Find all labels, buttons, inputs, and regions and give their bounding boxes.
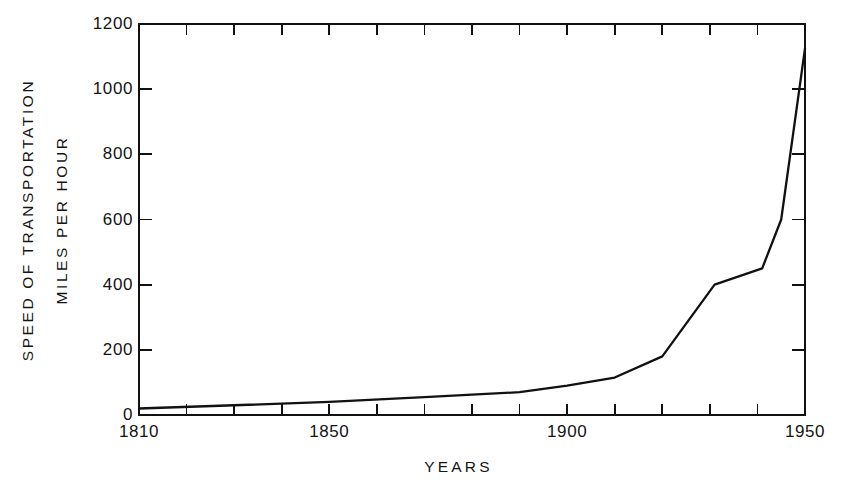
y-tick-label-400: 400 xyxy=(77,275,133,295)
x-tick-label-1850: 1850 xyxy=(309,422,349,442)
data-series-layer xyxy=(139,48,805,408)
axes-box xyxy=(139,24,805,415)
x-axis-label-text: YEARS xyxy=(354,458,493,475)
x-axis-ticks-bottom xyxy=(187,404,758,415)
x-tick-label-1950: 1950 xyxy=(785,422,825,442)
y-tick-label-1200: 1200 xyxy=(77,14,133,34)
y-axis-label-line-2: MILES PER HOUR xyxy=(53,135,71,304)
y-axis-tick-labels: 020040060080010001200 xyxy=(75,0,133,490)
y-tick-label-800: 800 xyxy=(77,144,133,164)
y-axis-ticks-left xyxy=(139,89,152,350)
x-axis-label: YEARS xyxy=(0,458,847,476)
y-tick-label-200: 200 xyxy=(77,340,133,360)
x-tick-label-1810: 1810 xyxy=(119,422,159,442)
x-axis-ticks-top xyxy=(187,24,758,35)
data-line-0 xyxy=(139,48,805,408)
x-axis-tick-labels: 1810185019001950 xyxy=(0,422,847,448)
y-tick-label-1000: 1000 xyxy=(77,79,133,99)
chart-figure: SPEED OF TRANSPORTATION MILES PER HOUR 0… xyxy=(0,0,847,490)
y-tick-label-600: 600 xyxy=(77,210,133,230)
x-tick-label-1900: 1900 xyxy=(547,422,587,442)
y-axis-label-line-1: SPEED OF TRANSPORTATION xyxy=(19,79,37,362)
